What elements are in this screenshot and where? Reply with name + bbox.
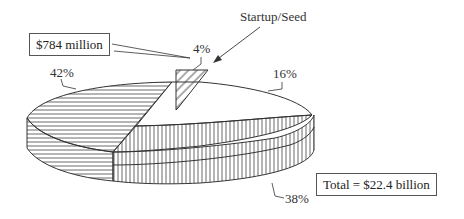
total-box: Total = $22.4 billion — [316, 173, 437, 196]
label-pct-38: 38% — [285, 192, 309, 205]
label-pct-16: 16% — [273, 67, 297, 80]
startup-amount-box: $784 million — [29, 33, 110, 56]
label-startup-seed: Startup/Seed — [240, 10, 306, 23]
label-pct-42: 42% — [50, 66, 74, 79]
label-pct-startup: 4% — [193, 42, 210, 55]
